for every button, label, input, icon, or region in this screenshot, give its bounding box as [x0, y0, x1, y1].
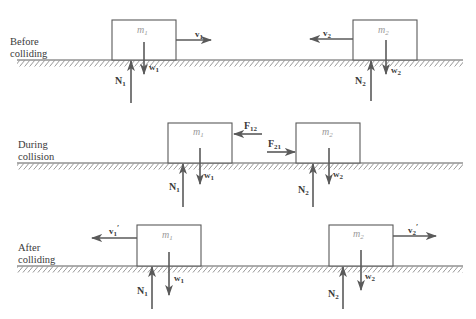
normal-label: N2: [328, 288, 339, 301]
weight-label: w1: [174, 273, 185, 285]
weight-label: w2: [365, 271, 376, 283]
stage-during: m1 N1 w1 F12 F21 m2 N2 w2: [17, 120, 463, 207]
force-label-f21: F21: [268, 138, 282, 151]
ground-hatching: [17, 164, 463, 170]
normal-label: N1: [115, 75, 126, 88]
stage-before: m1 N1 w1 v1 m2 N2 w2 v2: [17, 20, 463, 103]
velocity-label: v2′: [408, 223, 418, 237]
force-f21: F21: [267, 138, 295, 152]
force-f12: F12: [234, 120, 262, 134]
normal-label: N2: [355, 75, 366, 88]
ground-hatching: [17, 267, 463, 273]
weight-label: w1: [204, 170, 215, 182]
velocity-label: v1′: [109, 224, 119, 238]
weight-label: w2: [333, 169, 344, 181]
collision-diagram: m1 N1 w1 v1 m2 N2 w2 v2 m1 N1: [0, 0, 476, 319]
normal-label: N2: [298, 184, 309, 197]
stage-after: m1 N1 w1 v1′ m2 N2 w2 v2′: [17, 223, 463, 309]
normal-label: N1: [169, 181, 180, 194]
normal-label: N1: [137, 285, 148, 298]
weight-label: w2: [391, 65, 402, 77]
force-label-f12: F12: [244, 120, 258, 133]
